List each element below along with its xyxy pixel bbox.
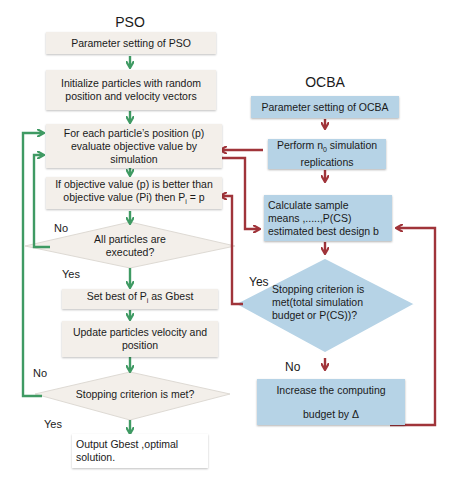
ocba-label-yes: Yes [249, 275, 269, 289]
ocba-step-label: estimated best design b [268, 225, 379, 238]
ocba-step-label: replications [300, 156, 353, 169]
decision-label: All particles are [80, 233, 180, 246]
pso-step-initialize: Initialize particles with random positio… [46, 70, 216, 110]
decision-label: met(total simulation [272, 296, 382, 309]
pso-label-yes-outer: Yes [44, 418, 62, 430]
ocba-title: OCBA [290, 74, 360, 90]
pso-step-label: For each particle’s position (p) [64, 127, 204, 140]
pso-step-update-velocity: Update particles velocity and position [62, 321, 218, 357]
ocba-step-calculate-means: Calculate sample means ,.....,P(CS) esti… [264, 195, 392, 241]
decision-label: executed? [80, 246, 180, 259]
ocba-step-label: budget by Δ [303, 402, 359, 426]
pso-label-no-outer: No [33, 367, 47, 379]
pso-step-label: Set best of Pi as Gbest [87, 290, 194, 307]
ocba-step-label: means ,.....,P(CS) [268, 212, 351, 225]
pso-step-label: Initialize particles with random [61, 77, 201, 90]
pso-step-label: If objective value (p) is better than [55, 178, 213, 191]
ocba-step-label: Increase the computing [276, 378, 385, 402]
ocba-label-no: No [285, 360, 300, 374]
pso-step-label: solution. [76, 451, 115, 464]
pso-step-label: position [122, 339, 158, 352]
pso-step-label: Parameter setting of PSO [71, 37, 191, 50]
pso-step-label: position and velocity vectors [65, 90, 196, 103]
decision-label: Stopping criterion is [272, 283, 382, 296]
ocba-decision-stopping: Stopping criterion is met(total simulati… [272, 283, 382, 322]
pso-step-evaluate: For each particle’s position (p) evaluat… [46, 124, 222, 168]
pso-step-set-gbest: Set best of Pi as Gbest [62, 289, 218, 309]
pso-step-label: Update particles velocity and [73, 326, 207, 339]
pso-step-label: Output Gbest ,optimal [76, 438, 178, 451]
ocba-step-label: Perform n0 simulation [277, 139, 377, 156]
decision-label: Stopping criterion is met? [65, 388, 205, 401]
pso-step-label: simulation [110, 153, 157, 166]
ocba-step-label: Calculate sample [268, 199, 349, 212]
ocba-step-label: Parameter setting of OCBA [261, 101, 388, 114]
pso-step-update-pbest: If objective value (p) is better than ob… [46, 177, 222, 209]
decision-label: budget or P(CS))? [272, 309, 382, 322]
pso-label-yes-inner: Yes [62, 268, 80, 280]
pso-step-label: evaluate objective value by [71, 140, 197, 153]
ocba-step-increase-budget: Increase the computing budget by Δ [257, 379, 405, 425]
pso-title: PSO [95, 14, 165, 30]
pso-step-label: objective value (Pi) then Pi = p [63, 191, 204, 208]
pso-label-no-inner: No [54, 222, 68, 234]
pso-step-output: Output Gbest ,optimal solution. [72, 434, 208, 468]
pso-decision-stopping: Stopping criterion is met? [65, 388, 205, 401]
ocba-step-parameter-setting: Parameter setting of OCBA [251, 96, 399, 118]
pso-decision-all-executed: All particles are executed? [80, 233, 180, 259]
ocba-step-perform-replications: Perform n0 simulation replications [268, 139, 386, 169]
pso-step-parameter-setting: Parameter setting of PSO [46, 32, 216, 54]
